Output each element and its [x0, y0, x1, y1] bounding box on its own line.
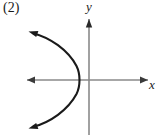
y-axis-up-arrow-icon [86, 19, 92, 28]
curve-upper-arrow-icon [29, 31, 39, 37]
parabola-figure: (2) y x [0, 0, 158, 135]
plot-canvas [0, 0, 158, 135]
y-axis-label: y [86, 0, 92, 14]
x-axis-label: x [149, 78, 155, 92]
x-axis-left-arrow-icon [27, 77, 35, 84]
x-axis-right-arrow-icon [140, 77, 148, 84]
curve-lower-arrow-icon [29, 123, 39, 129]
